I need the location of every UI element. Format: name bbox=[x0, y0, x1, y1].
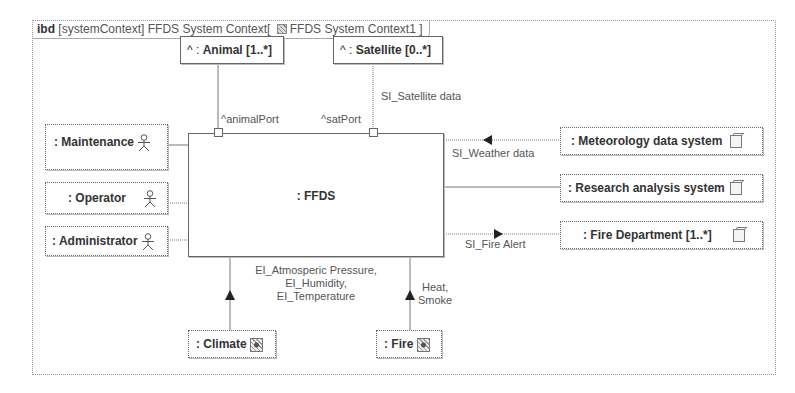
system-meteorology[interactable]: : Meteorology data system bbox=[560, 127, 763, 155]
env-fire[interactable]: : Fire bbox=[376, 330, 442, 358]
system-fire-department[interactable]: : Fire Department [1..*] bbox=[560, 221, 763, 249]
flow-label-fire-alert: SI_Fire Alert bbox=[465, 238, 526, 250]
ffds-block[interactable]: : FFDS bbox=[188, 133, 444, 257]
actor-administrator[interactable]: : Administrator bbox=[45, 226, 168, 256]
port-label-animal: ^animalPort bbox=[221, 113, 279, 125]
environment-icon bbox=[250, 338, 263, 352]
actor-operator[interactable]: : Operator bbox=[45, 182, 168, 214]
flow-label-climate: EI_Atmosperic Pressure, EI_Humidity, EI_… bbox=[236, 264, 396, 303]
block-icon bbox=[730, 182, 742, 195]
part-satellite[interactable]: ^ : Satellite [0..*] bbox=[333, 36, 443, 64]
diagram-kind: ibd bbox=[37, 22, 55, 36]
flow-label-satellite: SI_Satellite data bbox=[381, 90, 461, 102]
actor-icon bbox=[143, 190, 157, 208]
part-animal[interactable]: ^ : Animal [1..*] bbox=[180, 36, 284, 64]
context-name: FFDS System Context1 bbox=[290, 22, 416, 36]
sat-port[interactable] bbox=[369, 128, 378, 137]
env-climate[interactable]: : Climate bbox=[188, 330, 276, 358]
port-label-sat: ^satPort bbox=[321, 113, 361, 125]
actor-icon bbox=[137, 134, 151, 152]
actor-maintenance[interactable]: : Maintenance bbox=[45, 124, 168, 170]
ffds-label: : FFDS bbox=[189, 189, 443, 203]
system-research[interactable]: : Research analysis system bbox=[560, 174, 763, 202]
environment-icon bbox=[417, 338, 430, 352]
block-icon bbox=[733, 229, 745, 242]
flow-label-fire: Heat, Smoke bbox=[418, 281, 452, 307]
context-diagram-icon bbox=[277, 24, 287, 34]
actor-icon bbox=[141, 233, 155, 251]
flow-label-weather: SI_Weather data bbox=[452, 147, 534, 159]
frame-stereotype: [systemContext] bbox=[58, 22, 144, 36]
frame-name: FFDS System Context bbox=[148, 22, 267, 36]
animal-port[interactable] bbox=[214, 128, 223, 137]
block-icon bbox=[730, 135, 742, 148]
